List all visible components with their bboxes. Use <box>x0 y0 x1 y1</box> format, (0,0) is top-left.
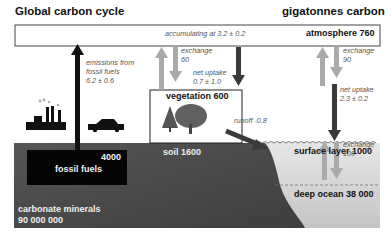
veg-net-uptake-label: net uptake 0.7 ± 1.0 <box>193 68 227 86</box>
vegetation-net-uptake-arrow <box>232 47 245 86</box>
ocean-net-uptake-label: net uptake 2.3 ± 0.2 <box>340 85 374 103</box>
ocean-exchange-down-arrow <box>330 47 343 78</box>
factory-icon <box>26 99 66 130</box>
carbonate-minerals-value: 90 000 000 <box>18 215 63 225</box>
ocean-exchange-up-arrow <box>316 47 329 86</box>
vegetation-exchange-up-arrow <box>155 47 168 90</box>
soil-label: soil 1600 <box>163 147 201 157</box>
diagram-title: Global carbon cycle <box>15 5 124 17</box>
fossil-fuels-label: fossil fuels <box>55 164 102 174</box>
accumulating-label: accumulating at 3.2 ± 0.2 <box>165 29 245 38</box>
car-icon <box>88 119 124 132</box>
carbonate-minerals-label: carbonate minerals <box>18 204 101 214</box>
deep-exchange-label: exchange 100 <box>343 140 374 158</box>
emissions-arrow <box>71 44 84 150</box>
units-label: gigatonnes carbon <box>282 5 385 17</box>
runoff-label: runoff -0.8 <box>234 116 267 125</box>
atmosphere-label: atmosphere 760 <box>306 28 375 38</box>
fossil-fuels-value: 4000 <box>101 152 121 162</box>
vegetation-label: vegetation 600 <box>166 91 229 101</box>
deep-ocean-label: deep ocean 38 000 <box>294 189 374 199</box>
emissions-label: emissions from fossil fuels 6.2 ± 0.6 <box>86 58 134 85</box>
ocean-exchange-label: exchange 90 <box>343 46 374 64</box>
veg-exchange-label: exchange 60 <box>181 46 212 64</box>
